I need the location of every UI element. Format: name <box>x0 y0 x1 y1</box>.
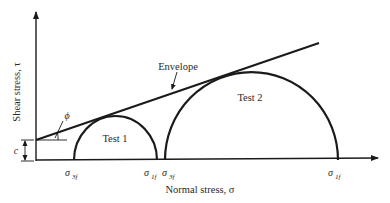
phi-angle-arc <box>58 133 59 140</box>
x-axis-label: Normal stress, σ <box>166 184 235 195</box>
svg-text:σ: σ <box>144 167 150 178</box>
svg-text:σ: σ <box>328 167 334 178</box>
sigma-1f-test-2-label: σ 1f <box>328 167 342 181</box>
sigma-3f-test-2-label: σ 3f <box>162 167 176 181</box>
diagram-svg: Shear stress, τ Normal stress, σ Envelop… <box>0 0 390 203</box>
test-1-label: Test 1 <box>102 133 127 144</box>
svg-text:1f: 1f <box>335 173 342 181</box>
svg-text:σ: σ <box>65 167 71 178</box>
y-axis-label: Shear stress, τ <box>11 62 22 121</box>
x-axis <box>36 158 378 160</box>
sigma-1f-test-1-label: σ 1f <box>144 167 158 181</box>
failure-envelope-line <box>36 43 319 140</box>
envelope-leader-arrow <box>172 72 177 89</box>
svg-text:σ: σ <box>162 167 168 178</box>
envelope-label: Envelope <box>158 61 198 72</box>
svg-text:3f: 3f <box>168 173 176 181</box>
test-2-label: Test 2 <box>237 92 262 103</box>
cohesion-label: c <box>14 145 19 156</box>
mohr-circle-test-2 <box>165 72 338 160</box>
sigma-3f-test-1-label: σ 3f <box>65 167 79 181</box>
svg-text:3f: 3f <box>71 173 79 181</box>
mohr-circle-diagram: Shear stress, τ Normal stress, σ Envelop… <box>0 0 390 203</box>
phi-leader-line <box>55 121 63 138</box>
phi-label: ϕ <box>64 110 69 121</box>
svg-text:1f: 1f <box>151 173 158 181</box>
